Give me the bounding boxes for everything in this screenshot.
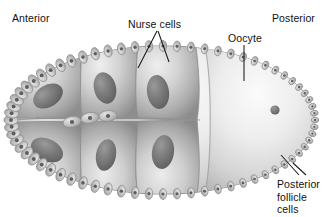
follicle-cell-nucleus	[12, 104, 16, 108]
follicle-cell-nucleus	[32, 79, 36, 83]
follicle-cell-nucleus	[120, 189, 123, 192]
follicle-cell-nucleus	[283, 163, 285, 165]
follicle-cell-nucleus	[133, 191, 136, 194]
egg-chamber-figure: Anterior Posterior Nurse cells Oocyte Po…	[0, 0, 331, 217]
follicle-cell-nucleus	[15, 138, 19, 142]
follicle-cell-nucleus	[298, 152, 300, 154]
follicle-cell-nucleus	[242, 182, 245, 185]
follicle-cell-nucleus	[81, 55, 85, 59]
follicle-cell-nucleus	[93, 184, 97, 188]
follicle-cell-nucleus	[203, 190, 206, 193]
follicle-cell-nucleus	[308, 139, 310, 141]
follicle-cell-nucleus	[313, 112, 315, 114]
central-cell-nucleus-3	[106, 114, 110, 118]
label-posterior-follicle-cells: Posterior follicle cells	[277, 178, 320, 216]
follicle-cell-nucleus	[19, 91, 23, 95]
follicle-cell-nucleus	[25, 85, 29, 89]
follicle-cell-nucleus	[106, 187, 109, 190]
follicle-cell-nucleus	[133, 46, 136, 49]
label-posterior: Posterior	[272, 12, 315, 24]
egg-chamber-body	[4, 40, 330, 199]
follicle-cell-nucleus	[106, 49, 109, 52]
follicle-cell-nucleus	[304, 92, 306, 94]
follicle-cell-nucleus	[81, 181, 85, 185]
follicle-cell-nucleus	[253, 60, 256, 63]
follicle-cell-nucleus	[274, 169, 277, 172]
follicle-cell-nucleus	[40, 163, 44, 167]
central-cell-nucleus-2	[88, 116, 92, 120]
follicle-cell-nucleus	[264, 64, 267, 67]
label-pfc-line3: cells	[277, 203, 320, 216]
follicle-cell-nucleus	[59, 173, 63, 177]
follicle-cell-nucleus	[304, 146, 306, 148]
follicle-cell-nucleus	[175, 45, 178, 48]
follicle-cell-nucleus	[175, 192, 178, 195]
follicle-cell-nucleus	[253, 178, 256, 181]
follicle-cell-nucleus	[25, 151, 29, 155]
follicle-cell-nucleus	[147, 192, 150, 195]
nurse-cell-3	[136, 44, 199, 120]
follicle-cell-nucleus	[59, 63, 63, 67]
follicle-cell-nucleus	[291, 80, 293, 82]
follicle-cell-nucleus	[229, 185, 232, 188]
follicle-cell-nucleus	[314, 119, 316, 121]
label-pfc-line2: follicle	[277, 191, 320, 204]
follicle-cell-nucleus	[15, 98, 19, 102]
label-pfc-line1: Posterior	[277, 178, 320, 191]
follicle-cell-nucleus	[40, 74, 44, 78]
central-cell-nucleus-1	[70, 120, 74, 124]
follicle-cell-nucleus	[12, 132, 16, 136]
follicle-cell-nucleus	[49, 68, 53, 72]
follicle-cell-nucleus	[283, 74, 285, 76]
follicle-cell-nucleus	[308, 99, 310, 101]
follicle-cell-nucleus	[70, 177, 74, 181]
follicle-cell-nucleus	[313, 126, 315, 128]
follicle-cell-nucleus	[161, 192, 164, 195]
label-nurse-cells: Nurse cells	[128, 18, 181, 30]
follicle-cell-nucleus	[216, 50, 219, 53]
follicle-cell-nucleus	[189, 191, 192, 194]
follicle-cell-nucleus	[229, 52, 232, 55]
follicle-cell-nucleus	[203, 47, 206, 50]
follicle-cell-nucleus	[10, 125, 14, 129]
follicle-cell-nucleus	[298, 86, 300, 88]
follicle-cell-nucleus	[120, 47, 123, 50]
follicle-cell-nucleus	[291, 158, 293, 160]
oocyte-nucleus	[270, 105, 279, 114]
follicle-cell-nucleus	[311, 105, 313, 107]
label-oocyte: Oocyte	[228, 32, 262, 44]
follicle-cell-nucleus	[19, 145, 23, 149]
leader-pfc-2	[293, 163, 306, 175]
follicle-cell-nucleus	[10, 111, 14, 115]
follicle-cell-nucleus	[93, 52, 97, 56]
follicle-cell-nucleus	[32, 157, 36, 161]
follicle-cell-nucleus	[274, 69, 277, 72]
follicle-cell-nucleus	[9, 118, 13, 122]
follicle-cell-nucleus	[264, 173, 267, 176]
follicle-cell-nucleus	[216, 188, 219, 191]
follicle-cell-nucleus	[189, 46, 192, 49]
follicle-cell-nucleus	[70, 59, 74, 63]
label-anterior: Anterior	[12, 12, 50, 24]
follicle-cell-nucleus	[49, 168, 53, 172]
follicle-cell-nucleus	[311, 132, 313, 134]
